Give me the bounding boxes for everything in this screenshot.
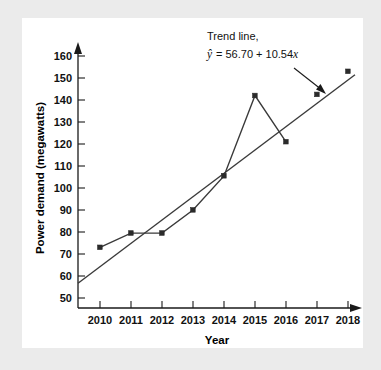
x-tick-2012: 2012 xyxy=(150,301,174,326)
y-tick-group: 50 60 70 80 90 100 xyxy=(54,50,85,304)
y-tick-label: 150 xyxy=(54,72,72,84)
x-tick-2016: 2016 xyxy=(274,301,298,326)
y-tick-label: 70 xyxy=(60,248,72,260)
annotation-equation-yhat: ŷ xyxy=(206,48,213,61)
y-tick-label: 80 xyxy=(60,226,72,238)
data-point-2017 xyxy=(315,92,320,97)
y-tick-label: 120 xyxy=(54,138,72,150)
x-tick-label: 2015 xyxy=(243,314,267,326)
y-tick-label: 110 xyxy=(54,160,72,172)
x-tick-label: 2013 xyxy=(181,314,205,326)
x-tick-label: 2010 xyxy=(88,314,112,326)
x-tick-2011: 2011 xyxy=(119,301,143,326)
y-axis-arrowhead xyxy=(74,42,82,54)
x-tick-group: 2010 2011 2012 2013 2014 2015 xyxy=(88,301,360,326)
data-point-2010 xyxy=(98,245,103,250)
trend-line-annotation: Trend line, ŷ = 56.70 + 10.54 x xyxy=(206,30,326,94)
y-tick-label: 100 xyxy=(54,182,72,194)
y-tick-150: 150 xyxy=(54,72,85,84)
y-tick-label: 140 xyxy=(54,94,72,106)
figure-panel: 50 60 70 80 90 100 xyxy=(22,18,363,348)
x-tick-label: 2011 xyxy=(119,314,143,326)
y-tick-100: 100 xyxy=(54,182,85,194)
x-tick-label: 2012 xyxy=(150,314,174,326)
x-axis-title: Year xyxy=(205,334,230,346)
y-tick-label: 160 xyxy=(54,50,72,62)
y-tick-label: 130 xyxy=(54,116,72,128)
y-tick-110: 110 xyxy=(54,160,85,172)
data-point-2012 xyxy=(160,231,165,236)
x-tick-2015: 2015 xyxy=(243,301,267,326)
data-point-2011 xyxy=(129,231,134,236)
y-axis xyxy=(74,42,82,308)
data-point-2015 xyxy=(253,93,258,98)
y-tick-90: 90 xyxy=(60,204,85,216)
annotation-line-1: Trend line, xyxy=(207,30,259,42)
x-tick-2017: 2017 xyxy=(305,301,329,326)
data-point-2014 xyxy=(222,174,227,179)
annotation-equation-body: = 56.70 + 10.54 xyxy=(216,48,293,60)
annotation-arrow-shaft xyxy=(294,68,322,90)
x-tick-label: 2014 xyxy=(212,314,237,326)
y-tick-50: 50 xyxy=(60,292,85,304)
trend-line xyxy=(78,75,355,283)
y-tick-80: 80 xyxy=(60,226,85,238)
x-tick-2018: 2018 xyxy=(336,301,360,326)
data-point-markers xyxy=(98,69,351,250)
x-tick-label: 2018 xyxy=(336,314,360,326)
y-tick-label: 90 xyxy=(60,204,72,216)
data-point-2016 xyxy=(284,139,289,144)
data-series-line xyxy=(100,96,286,248)
y-tick-70: 70 xyxy=(60,248,85,260)
y-tick-140: 140 xyxy=(54,94,85,106)
data-point-2013 xyxy=(191,208,196,213)
x-tick-label: 2017 xyxy=(305,314,329,326)
y-tick-120: 120 xyxy=(54,138,85,150)
y-tick-label: 50 xyxy=(60,292,72,304)
y-axis-title: Power demand (megawatts) xyxy=(34,102,46,254)
data-point-2018 xyxy=(346,69,351,74)
x-tick-2014: 2014 xyxy=(212,301,237,326)
x-tick-label: 2016 xyxy=(274,314,298,326)
x-axis xyxy=(78,304,362,312)
x-tick-2010: 2010 xyxy=(88,301,112,326)
chart-canvas: 50 60 70 80 90 100 xyxy=(22,18,363,348)
y-tick-label: 60 xyxy=(60,270,72,282)
x-axis-arrowhead xyxy=(350,304,362,312)
annotation-equation-xvar: x xyxy=(292,48,299,60)
x-tick-2013: 2013 xyxy=(181,301,205,326)
y-tick-130: 130 xyxy=(54,116,85,128)
